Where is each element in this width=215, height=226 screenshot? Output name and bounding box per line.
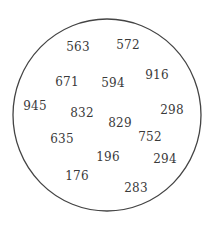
set-element-number: 635 [50,133,74,145]
set-element-number: 829 [108,117,132,129]
set-element-number: 283 [124,182,148,194]
set-element-number: 832 [70,107,94,119]
set-element-number: 594 [101,77,125,89]
number-set-diagram: 5635729166715949452988328296357521962941… [0,0,215,226]
set-element-number: 196 [96,151,120,163]
set-element-number: 752 [138,131,162,143]
set-element-number: 671 [55,76,79,88]
set-element-number: 176 [65,170,89,182]
set-element-number: 294 [153,153,177,165]
set-element-number: 916 [145,69,169,81]
set-element-number: 298 [160,104,184,116]
set-element-number: 572 [116,39,140,51]
set-element-number: 563 [66,41,90,53]
set-element-number: 945 [23,100,47,112]
